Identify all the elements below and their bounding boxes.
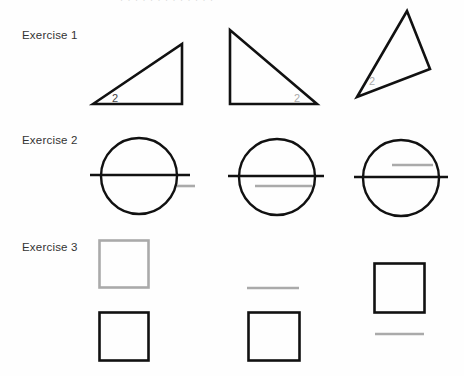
triangle-2 xyxy=(230,30,317,104)
exercise-2-figures xyxy=(90,138,448,216)
black-square-1 xyxy=(100,313,149,361)
exercise-figures: 2 2 2 xyxy=(0,0,464,376)
exercise-1-figures: 2 2 2 xyxy=(93,11,430,104)
worksheet-page: · · · · · · · · · · · · · Exercise 1 Exe… xyxy=(0,0,464,376)
triangle-1 xyxy=(93,44,182,104)
black-square-2 xyxy=(249,313,300,361)
angle-label-3: 2 xyxy=(369,75,375,87)
triangle-3 xyxy=(357,11,430,97)
exercise-3-figures xyxy=(100,241,425,361)
black-square-3 xyxy=(375,264,425,313)
angle-label-2: 2 xyxy=(294,92,300,104)
angle-label-1: 2 xyxy=(112,92,118,104)
gray-square-1 xyxy=(100,241,149,288)
